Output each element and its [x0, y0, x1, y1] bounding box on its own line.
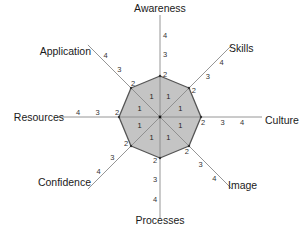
- tick-label-awareness-3: 3: [163, 50, 167, 59]
- vertex-confidence: [130, 145, 132, 147]
- tick-label-resources-2: 2: [115, 108, 119, 117]
- tick-label-culture-3: 3: [220, 118, 224, 127]
- axis-label-skills: Skills: [229, 42, 254, 54]
- tick-label-processes-4: 4: [153, 195, 157, 204]
- tick-label-resources-4: 4: [76, 108, 80, 117]
- tick-label-resources-3: 3: [95, 108, 99, 117]
- vertex-awareness: [159, 75, 161, 77]
- tick-label-image-4: 4: [212, 174, 216, 183]
- tick-label-culture-4: 4: [240, 118, 244, 127]
- tick-label-processes-2: 2: [153, 156, 157, 165]
- tick-label-culture-2: 2: [201, 118, 205, 127]
- tick-label-resources-1: 1: [138, 104, 142, 113]
- tick-label-skills-4: 4: [219, 58, 223, 67]
- tick-label-application-2: 2: [131, 79, 135, 88]
- tick-label-confidence-3: 3: [110, 153, 114, 162]
- tick-label-image-3: 3: [199, 160, 203, 169]
- tick-label-skills-2: 2: [192, 86, 196, 95]
- tick-label-confidence-2: 2: [124, 139, 128, 148]
- radar-chart: 12341234123412341234123412341234Awarenes…: [0, 0, 301, 234]
- axis-label-application: Application: [40, 45, 92, 57]
- tick-label-image-2: 2: [185, 147, 189, 156]
- vertex-skills: [188, 87, 190, 89]
- vertex-processes: [159, 157, 161, 159]
- tick-label-confidence-4: 4: [96, 167, 100, 176]
- tick-label-application-4: 4: [103, 51, 107, 60]
- tick-label-image-1: 1: [166, 133, 170, 142]
- axis-label-processes: Processes: [135, 214, 184, 226]
- tick-label-skills-1: 1: [178, 104, 182, 113]
- tick-label-awareness-2: 2: [163, 70, 167, 79]
- axis-label-awareness: Awareness: [134, 2, 186, 14]
- tick-label-culture-1: 1: [178, 121, 182, 130]
- tick-label-confidence-1: 1: [138, 121, 142, 130]
- tick-label-application-1: 1: [149, 92, 153, 101]
- tick-label-awareness-4: 4: [163, 31, 167, 40]
- axis-label-resources: Resources: [14, 111, 64, 123]
- axis-label-image: Image: [228, 179, 257, 191]
- axis-label-confidence: Confidence: [38, 176, 91, 188]
- axis-label-culture: Culture: [265, 114, 299, 126]
- tick-label-awareness-1: 1: [166, 92, 170, 101]
- tick-label-processes-3: 3: [153, 175, 157, 184]
- center-point: [159, 116, 162, 119]
- tick-label-application-3: 3: [117, 65, 121, 74]
- tick-label-skills-3: 3: [206, 72, 210, 81]
- tick-label-processes-1: 1: [149, 133, 153, 142]
